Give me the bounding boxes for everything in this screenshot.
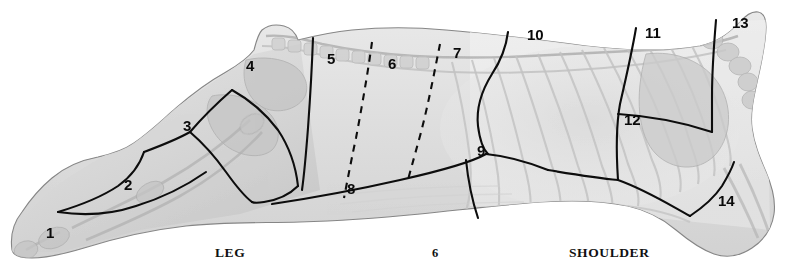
section-number-8: 8 <box>347 180 355 197</box>
caption-leg: LEG <box>215 245 245 261</box>
section-number-7: 7 <box>453 44 461 61</box>
section-number-2: 2 <box>124 176 132 193</box>
caption-shoulder: SHOULDER <box>569 245 650 261</box>
section-number-3: 3 <box>183 117 191 134</box>
section-number-5: 5 <box>327 50 335 67</box>
carcass-figure: 1 2 3 4 5 6 7 8 9 10 11 12 13 14 <box>0 0 811 266</box>
section-number-13: 13 <box>732 14 749 31</box>
section-number-6: 6 <box>388 55 396 72</box>
section-number-9: 9 <box>477 142 485 159</box>
section-number-10: 10 <box>527 26 544 43</box>
section-number-12: 12 <box>624 111 641 128</box>
page-number: 6 <box>432 246 438 261</box>
carcass-silhouette <box>11 12 774 262</box>
section-number-4: 4 <box>246 57 255 74</box>
section-number-11: 11 <box>645 24 661 41</box>
section-number-1: 1 <box>46 224 54 241</box>
carcass-diagram: 1 2 3 4 5 6 7 8 9 10 11 12 13 14 LEG SHO… <box>0 0 811 266</box>
section-number-14: 14 <box>718 192 735 209</box>
